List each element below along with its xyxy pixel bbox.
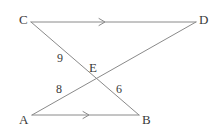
vertex-label-D: D: [199, 12, 208, 27]
length-label-CE: 9: [57, 51, 63, 65]
vertex-label-E: E: [89, 60, 97, 75]
vertex-label-A: A: [19, 112, 29, 127]
vertex-label-C: C: [19, 12, 28, 27]
segment-AD: [32, 22, 196, 115]
length-label-AE: 8: [56, 82, 62, 96]
geometry-figure: C D E A B 9 8 6: [0, 0, 220, 128]
vertex-label-B: B: [142, 112, 151, 127]
segment-CB: [31, 22, 139, 115]
geometry-canvas: C D E A B 9 8 6: [0, 0, 220, 128]
length-label-EB: 6: [116, 82, 122, 96]
